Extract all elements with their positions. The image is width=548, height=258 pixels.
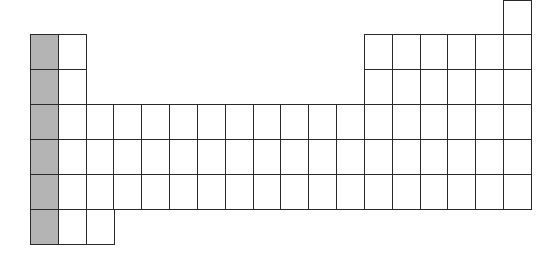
element-cell xyxy=(447,174,476,210)
element-cell xyxy=(58,174,87,210)
element-cell xyxy=(447,139,476,175)
element-cell xyxy=(336,139,365,175)
element-cell xyxy=(58,34,87,70)
element-cell xyxy=(86,104,115,140)
element-cell xyxy=(308,174,337,210)
element-cell xyxy=(86,139,115,175)
element-cell xyxy=(392,34,421,70)
element-cell xyxy=(475,69,504,105)
element-cell xyxy=(113,174,142,210)
element-cell xyxy=(253,139,282,175)
element-cell xyxy=(225,104,254,140)
element-cell xyxy=(280,174,309,210)
element-cell xyxy=(225,139,254,175)
element-cell xyxy=(253,174,282,210)
element-cell xyxy=(280,139,309,175)
element-cell xyxy=(475,174,504,210)
element-cell xyxy=(113,104,142,140)
element-cell xyxy=(336,104,365,140)
element-cell xyxy=(364,174,393,210)
element-cell xyxy=(58,69,87,105)
shaded-element-cell xyxy=(30,139,59,175)
element-cell xyxy=(58,209,87,245)
shaded-element-cell xyxy=(30,69,59,105)
element-cell xyxy=(392,174,421,210)
shaded-element-cell xyxy=(30,104,59,140)
element-cell xyxy=(447,34,476,70)
element-cell xyxy=(197,104,226,140)
element-cell xyxy=(364,104,393,140)
element-cell xyxy=(392,104,421,140)
element-cell xyxy=(420,139,449,175)
element-cell xyxy=(420,174,449,210)
element-cell xyxy=(308,104,337,140)
element-cell xyxy=(420,104,449,140)
element-cell xyxy=(141,104,170,140)
element-cell xyxy=(447,104,476,140)
element-cell xyxy=(364,139,393,175)
element-cell xyxy=(503,34,532,70)
element-cell xyxy=(503,0,532,35)
element-cell xyxy=(503,69,532,105)
element-cell xyxy=(336,174,365,210)
element-cell xyxy=(308,139,337,175)
element-cell xyxy=(475,104,504,140)
element-cell xyxy=(197,139,226,175)
element-cell xyxy=(86,174,115,210)
element-cell xyxy=(58,139,87,175)
element-cell xyxy=(86,209,115,245)
element-cell xyxy=(141,174,170,210)
shaded-element-cell xyxy=(30,34,59,70)
periodic-table-outline xyxy=(0,0,548,258)
element-cell xyxy=(280,104,309,140)
element-cell xyxy=(113,139,142,175)
element-cell xyxy=(447,69,476,105)
element-cell xyxy=(169,104,198,140)
shaded-element-cell xyxy=(30,174,59,210)
element-cell xyxy=(503,174,532,210)
element-cell xyxy=(364,69,393,105)
element-cell xyxy=(169,174,198,210)
element-cell xyxy=(141,139,170,175)
element-cell xyxy=(420,34,449,70)
element-cell xyxy=(475,139,504,175)
element-cell xyxy=(169,139,198,175)
element-cell xyxy=(475,34,504,70)
element-cell xyxy=(364,34,393,70)
element-cell xyxy=(503,104,532,140)
element-cell xyxy=(392,139,421,175)
element-cell xyxy=(197,174,226,210)
element-cell xyxy=(392,69,421,105)
element-cell xyxy=(503,139,532,175)
element-cell xyxy=(58,104,87,140)
shaded-element-cell xyxy=(30,209,59,245)
element-cell xyxy=(253,104,282,140)
element-cell xyxy=(420,69,449,105)
element-cell xyxy=(225,174,254,210)
